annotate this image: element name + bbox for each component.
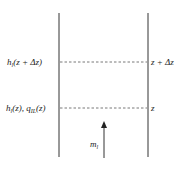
- lower-right-label: z: [151, 103, 155, 113]
- upper-right-label: z + Δz: [151, 57, 174, 67]
- upper-left-label: hl(z + Δz): [7, 57, 42, 70]
- arrow-up-icon: [101, 121, 107, 128]
- flow-label: ml: [90, 139, 98, 152]
- lower-left-label: hl(z), qIL(z): [6, 103, 46, 116]
